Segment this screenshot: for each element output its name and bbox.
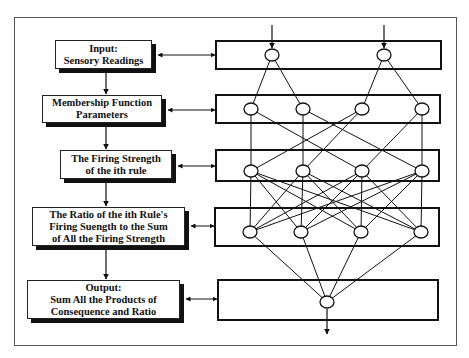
layer-2-node: [296, 103, 310, 115]
layer-1-node: [377, 49, 391, 61]
layer-3-node: [244, 165, 258, 177]
network-graphic: [0, 0, 469, 358]
layer-1-box: [216, 41, 441, 69]
layer-3-node: [415, 165, 429, 177]
layer-4-node: [243, 226, 257, 238]
layer-4-node: [414, 226, 428, 238]
bidirectional-arrows: [158, 55, 217, 299]
layer-1-node: [265, 49, 279, 61]
layer-boxes: [215, 41, 441, 320]
layer-2-node: [244, 103, 258, 115]
connections: [250, 55, 422, 302]
anfis-diagram: Input: Sensory Readings Membership Funct…: [0, 0, 469, 358]
input-arrows: [272, 25, 384, 48]
layer-4-node: [294, 226, 308, 238]
layer-2-node: [415, 103, 429, 115]
layer-4-node: [354, 226, 368, 238]
layer-3-node: [296, 165, 310, 177]
layer-3-node: [355, 165, 369, 177]
layer-5-node: [320, 296, 334, 308]
layer-2-node: [355, 103, 369, 115]
